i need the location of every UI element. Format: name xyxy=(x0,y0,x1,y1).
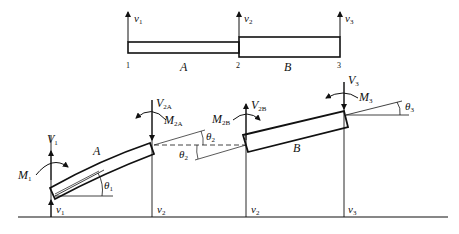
element-a-top xyxy=(128,42,239,53)
moment-label-m1: M1 xyxy=(17,168,32,183)
disp-label-v1: v1 xyxy=(56,203,65,217)
theta3-arc xyxy=(397,102,400,115)
theta1-label: θ1 xyxy=(104,179,113,193)
moment-label-m3: M3 xyxy=(358,90,373,105)
dof-label-v3: v3 xyxy=(345,12,354,26)
dof-label-v2: v2 xyxy=(244,12,253,26)
theta2-upper-arc xyxy=(201,131,203,145)
theta3-label: θ3 xyxy=(405,100,414,114)
moment-label-m2b: M2B xyxy=(211,112,231,127)
theta2-upper-label: θ2 xyxy=(206,130,215,144)
node-label-3: 3 xyxy=(337,61,341,70)
theta1-tangent xyxy=(55,170,104,196)
disp-label-v3: v3 xyxy=(348,203,357,217)
force-label-v3: V3 xyxy=(348,73,359,88)
moment-arc-m2a xyxy=(136,111,166,120)
dof-label-v1: v1 xyxy=(134,12,143,26)
beam-element-diagram: v1 v2 v3 1 2 3 A B θ1 V1 v1 M1 xyxy=(0,0,459,234)
disp-label-v2a: v2 xyxy=(157,203,166,217)
moment-arc-m1 xyxy=(36,163,68,176)
deformed-beam: θ1 V1 v1 M1 A V2A M2A θ2 θ2 V2B M2B B xyxy=(17,73,448,217)
theta3-tangent xyxy=(346,101,402,115)
element-label-b-bottom: B xyxy=(293,141,301,155)
theta2-lower-label: θ2 xyxy=(179,148,188,162)
force-label-v1: V1 xyxy=(47,132,58,147)
disp-label-v2b: v2 xyxy=(251,203,260,217)
element-label-a-bottom: A xyxy=(92,144,101,158)
element-label-a-top: A xyxy=(179,60,188,74)
moment-arc-m3 xyxy=(326,93,358,98)
theta2-lower-tangent xyxy=(195,145,246,160)
element-label-b-top: B xyxy=(284,60,292,74)
node-label-2: 2 xyxy=(236,61,240,70)
undeformed-beam: v1 v2 v3 1 2 3 A B xyxy=(126,12,354,74)
theta2-lower-arc xyxy=(197,145,198,159)
force-label-v2b: V2B xyxy=(251,98,267,113)
node-label-1: 1 xyxy=(126,61,130,70)
moment-label-m2a: M2A xyxy=(163,113,183,128)
force-label-v2a: V2A xyxy=(156,96,172,111)
theta2-upper-tangent xyxy=(154,130,205,145)
element-b-top xyxy=(239,37,340,57)
